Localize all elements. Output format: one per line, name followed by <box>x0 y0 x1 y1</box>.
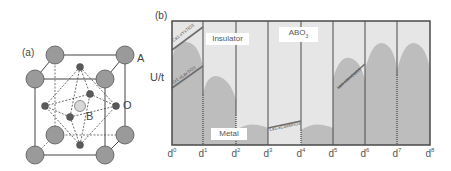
compound-main: ABO <box>289 28 306 37</box>
tick-base: d <box>297 148 303 159</box>
x-tick-d5: d5 <box>329 148 338 159</box>
tick-sup: 4 <box>302 147 305 153</box>
x-tick-d3: d3 <box>264 148 273 159</box>
x-tick-d0: d0 <box>168 148 177 159</box>
phase-diagram <box>0 0 451 171</box>
x-tick-d4: d4 <box>297 148 306 159</box>
metal-label: Metal <box>211 128 247 140</box>
x-tick-d1: d1 <box>199 148 208 159</box>
tick-base: d <box>264 148 270 159</box>
tick-base: d <box>232 148 238 159</box>
tick-sup: 6 <box>366 147 369 153</box>
tick-base: d <box>199 148 205 159</box>
x-tick-d6: d6 <box>361 148 370 159</box>
x-tick-d7: d7 <box>393 148 402 159</box>
compound-label: ABO3 <box>279 27 318 42</box>
tick-base: d <box>426 148 432 159</box>
insulator-label: Insulator <box>206 33 249 45</box>
tick-sup: 7 <box>398 147 401 153</box>
compound-sub: 3 <box>306 33 309 39</box>
tick-base: d <box>393 148 399 159</box>
tick-sup: 8 <box>431 147 434 153</box>
tick-sup: 2 <box>237 147 240 153</box>
x-tick-d2: d2 <box>232 148 241 159</box>
tick-sup: 5 <box>334 147 337 153</box>
tick-base: d <box>329 148 335 159</box>
tick-sup: 1 <box>204 147 207 153</box>
x-tick-d8: d8 <box>426 148 435 159</box>
tick-base: d <box>168 148 174 159</box>
tick-sup: 0 <box>173 147 176 153</box>
tick-base: d <box>361 148 367 159</box>
tick-sup: 3 <box>269 147 272 153</box>
